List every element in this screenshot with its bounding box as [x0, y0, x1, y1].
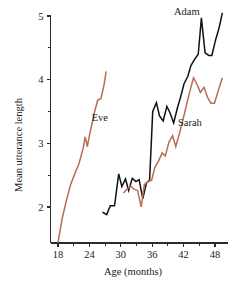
axes-group [47, 16, 229, 247]
y-axis-tick-labels: 2345 [38, 11, 44, 213]
line-chart: 2345 182430364248 EveAdamSarah Age (mont… [0, 0, 236, 290]
series-group [58, 13, 222, 243]
x-tick-label: 36 [147, 249, 158, 260]
series-line-adam [102, 13, 222, 215]
x-tick-label: 30 [116, 249, 127, 260]
series-line-sarah [123, 78, 222, 207]
y-tick-label: 3 [38, 138, 43, 149]
chart-container: 2345 182430364248 EveAdamSarah Age (mont… [0, 0, 236, 290]
series-label-eve: Eve [92, 112, 109, 123]
x-tick-label: 48 [210, 249, 221, 260]
y-axis-ticks [47, 16, 51, 207]
series-line-eve [58, 71, 106, 242]
x-axis-title: Age (months) [104, 266, 163, 278]
x-axis-tick-labels: 182430364248 [53, 249, 221, 260]
x-axis-ticks [58, 243, 215, 247]
x-tick-label: 24 [84, 249, 95, 260]
x-tick-label: 18 [53, 249, 64, 260]
y-tick-label: 2 [38, 202, 43, 213]
y-tick-label: 4 [38, 74, 44, 85]
series-label-sarah: Sarah [178, 117, 203, 128]
y-tick-label: 5 [38, 11, 43, 22]
y-axis-title: Mean utterance length [13, 97, 24, 192]
x-tick-label: 42 [178, 249, 189, 260]
series-label-adam: Adam [174, 6, 200, 17]
